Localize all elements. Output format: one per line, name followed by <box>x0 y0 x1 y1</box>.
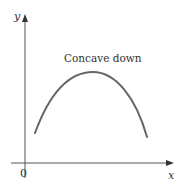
y-axis-arrow-icon <box>22 14 28 22</box>
concavity-diagram: y x 0 Concave down <box>0 0 178 194</box>
x-axis-arrow-icon <box>166 160 174 166</box>
concave-down-curve <box>35 72 147 137</box>
x-axis-label: x <box>168 169 175 182</box>
origin-label: 0 <box>20 167 27 180</box>
curve-title: Concave down <box>64 52 142 64</box>
y-axis-label: y <box>13 10 21 23</box>
